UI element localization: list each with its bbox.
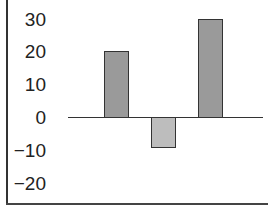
y-tick-label: 30 [25, 9, 46, 28]
y-tick-label: −20 [14, 173, 46, 192]
y-tick-label: −10 [14, 140, 46, 159]
chart-frame-bottom [6, 203, 268, 205]
bar [151, 117, 176, 148]
bar [104, 51, 129, 118]
y-tick-label: 20 [25, 42, 46, 61]
bar [198, 19, 223, 118]
chart-frame-left [6, 0, 8, 204]
y-tick-label: 10 [25, 75, 46, 94]
y-tick-label: 0 [35, 108, 46, 127]
